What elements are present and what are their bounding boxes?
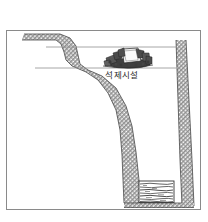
stone-facility-label: 석제시설 [96, 70, 148, 80]
cross-section-drawing [0, 0, 208, 222]
figure-root: 석제시설 [0, 0, 208, 222]
timber-fill-deposit [139, 181, 174, 203]
